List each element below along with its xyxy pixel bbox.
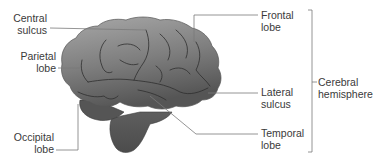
label-lateral-sulcus: Lateral sulcus — [261, 86, 293, 110]
label-central-sulcus: Central sulcus — [5, 12, 47, 36]
label-line: Lateral — [261, 86, 293, 98]
label-line: lobe — [5, 143, 54, 155]
label-line: Frontal — [261, 9, 294, 21]
label-parietal-lobe: Parietal lobe — [5, 50, 56, 74]
label-line: Central — [5, 12, 47, 24]
label-line: Parietal — [5, 50, 56, 62]
label-line: lobe — [261, 21, 294, 33]
label-line: lobe — [261, 139, 304, 151]
label-line: Temporal — [261, 127, 304, 139]
label-line: Occipital — [5, 131, 54, 143]
brainstem-shape — [110, 112, 172, 152]
label-cerebral-hemisphere: Cerebral hemisphere — [318, 76, 373, 100]
label-frontal-lobe: Frontal lobe — [261, 9, 294, 33]
label-line: sulcus — [5, 24, 47, 36]
label-temporal-lobe: Temporal lobe — [261, 127, 304, 151]
label-line: sulcus — [261, 98, 293, 110]
label-line: lobe — [5, 62, 56, 74]
label-occipital-lobe: Occipital lobe — [5, 131, 54, 155]
label-line: hemisphere — [318, 88, 373, 100]
label-line: Cerebral — [318, 76, 373, 88]
